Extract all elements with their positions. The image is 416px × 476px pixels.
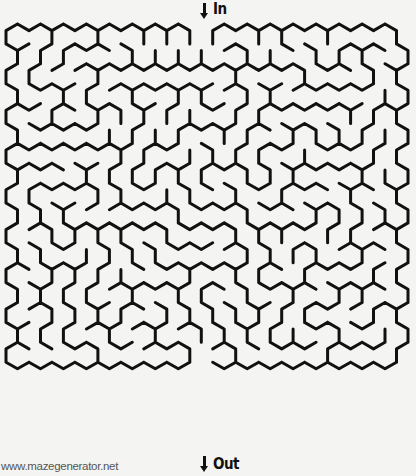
exit-label: Out — [213, 455, 239, 473]
entrance-label: In — [213, 0, 227, 18]
watermark: www.mazegenerator.net — [1, 460, 118, 472]
maze-grid — [0, 0, 416, 476]
maze-walls — [6, 24, 408, 369]
